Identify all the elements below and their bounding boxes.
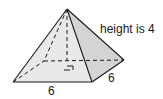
base-side-edge-label: 6	[108, 72, 115, 84]
pyramid-diagram	[0, 0, 163, 99]
height-label: height is 4	[100, 23, 155, 35]
base-front-edge-label: 6	[48, 85, 55, 97]
